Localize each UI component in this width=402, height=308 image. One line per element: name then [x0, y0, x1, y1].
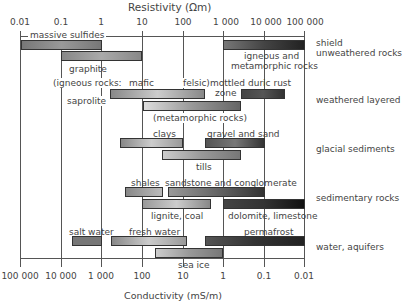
- bar-lignite-coal: [142, 199, 211, 209]
- category-label: water, aquifers: [316, 242, 384, 253]
- bar-label: sea ice: [178, 260, 210, 270]
- gridline: [61, 31, 62, 267]
- bar-mottled-zone: [143, 101, 241, 111]
- bottom-tick: 100 000: [1, 271, 38, 281]
- top-tick: 0.01: [10, 17, 30, 27]
- category-label: glacial sediments: [316, 144, 395, 155]
- bar-label: (metamorphic rocks): [153, 113, 247, 123]
- bar-massive-sulfides: [21, 40, 102, 50]
- bar-label: metamorphic rocks: [231, 61, 318, 71]
- bar-label: felsic): [183, 78, 210, 88]
- bar-label: tills: [196, 162, 212, 172]
- bottom-tick: 1 000: [88, 271, 114, 281]
- bottom-tick: 10: [177, 271, 188, 281]
- bar-tills: [162, 150, 241, 160]
- top-tick: 100: [174, 17, 191, 27]
- bar-label: duric rust: [248, 78, 291, 88]
- bar-label: dolomite, limestone: [228, 211, 318, 221]
- bar-shales: [125, 187, 163, 197]
- bar-dolomite-limestone: [223, 199, 305, 209]
- bar-sea-ice: [155, 248, 223, 258]
- bar-clays: [120, 138, 183, 148]
- top-tick: 0.1: [54, 17, 68, 27]
- bar-sandstone-conglomerate: [168, 187, 265, 197]
- category-label: unweathered rocks: [316, 48, 402, 59]
- bottom-tick: 0.1: [257, 271, 271, 281]
- bar-label: igneous and: [244, 51, 299, 61]
- bar-label: lignite, coal: [151, 211, 203, 221]
- bottom-tick: 0.01: [294, 271, 314, 281]
- bar-saprolite: [110, 89, 205, 99]
- category-label: sedimentary rocks: [316, 193, 399, 204]
- category-label: weathered layered: [316, 95, 400, 106]
- bar-label: saprolite: [67, 96, 106, 106]
- gridline: [223, 31, 224, 267]
- bar-label: mafic: [129, 78, 154, 88]
- bottom-axis-line: [20, 258, 305, 259]
- bar-label: mottled: [210, 78, 245, 88]
- top-tick: 10: [136, 17, 147, 27]
- bar-permafrost: [205, 236, 305, 246]
- bottom-tick: 10 000: [45, 271, 77, 281]
- top-tick: 10 000: [250, 17, 282, 27]
- bottom-tick: 1: [220, 271, 226, 281]
- bar-label: graphite: [69, 64, 107, 74]
- bar-label: (igneous rocks:: [53, 78, 122, 88]
- bar-igneous-metamorphic: [223, 40, 305, 50]
- top-tick: 100 000: [286, 17, 323, 27]
- bottom-tick: 100: [133, 271, 150, 281]
- top-axis-title: Resistivity (Ωm): [128, 1, 211, 13]
- bottom-axis-title: Conductivity (mS/m): [124, 290, 222, 301]
- gridline: [183, 31, 184, 267]
- gridline: [20, 31, 21, 267]
- bar-salt-water: [72, 236, 102, 246]
- bar-gravel-sand: [205, 138, 265, 148]
- bar-fresh-water: [111, 236, 187, 246]
- bar-duric-rust: [241, 89, 285, 99]
- bar-label: massive sulfides: [28, 30, 106, 40]
- bar-graphite: [61, 51, 142, 61]
- top-tick: 1 000: [213, 17, 239, 27]
- bar-label: zone: [215, 88, 236, 98]
- top-tick: 1: [98, 17, 104, 27]
